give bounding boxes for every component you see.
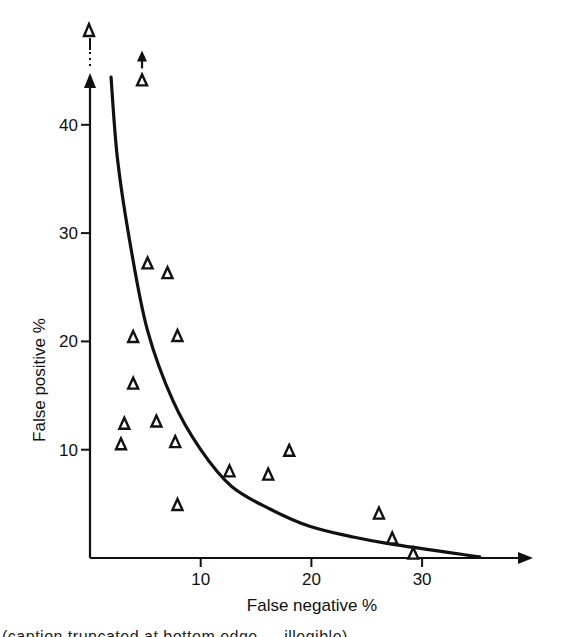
- x-tick-label: 30: [413, 570, 432, 589]
- triangle-marker-icon: [137, 74, 147, 85]
- x-tick: 20: [302, 558, 321, 589]
- y-ticks: 10203040: [59, 116, 90, 460]
- data-point: [263, 469, 273, 480]
- x-tick-label: 10: [191, 570, 210, 589]
- scatter-chart: 102030 10203040 False negative % False p…: [0, 0, 569, 637]
- figure-caption-truncated: (caption truncated at bottom edge — ille…: [0, 629, 569, 637]
- triangle-marker-icon: [172, 499, 182, 510]
- x-ticks: 102030: [191, 558, 431, 589]
- fitted-curve: [111, 77, 480, 557]
- data-point: [162, 267, 172, 278]
- x-tick: 10: [191, 558, 210, 589]
- triangle-marker-icon: [116, 438, 126, 449]
- data-point: [151, 416, 161, 427]
- data-point: [143, 257, 153, 268]
- triangle-marker-icon: [128, 331, 138, 342]
- x-tick-label: 20: [302, 570, 321, 589]
- y-axis-arrowhead: [84, 73, 96, 88]
- triangle-marker-icon: [162, 267, 172, 278]
- triangle-marker-icon: [172, 330, 182, 341]
- y-tick-label: 10: [59, 441, 78, 460]
- data-point: [172, 499, 182, 510]
- y-tick: 20: [59, 332, 90, 351]
- x-tick: 30: [413, 558, 432, 589]
- data-point: [170, 436, 180, 447]
- data-point: [128, 331, 138, 342]
- triangle-marker-icon: [143, 257, 153, 268]
- triangle-marker-icon: [387, 533, 397, 544]
- triangle-marker-icon: [284, 445, 294, 456]
- triangle-marker-icon: [263, 469, 273, 480]
- data-point: [128, 378, 138, 389]
- y-axis-title: False positive %: [30, 318, 49, 442]
- axes: [84, 52, 533, 564]
- x-axis-arrowhead: [518, 552, 533, 564]
- data-point: [137, 50, 147, 85]
- y-tick: 10: [59, 441, 90, 460]
- triangle-marker-icon: [224, 465, 234, 476]
- data-point: [172, 330, 182, 341]
- offscale-arrow-up-icon: [137, 50, 147, 61]
- caption-text: (caption truncated at bottom edge — ille…: [0, 629, 569, 637]
- y-tick-label: 30: [59, 224, 78, 243]
- data-point: [387, 533, 397, 544]
- data-point: [224, 465, 234, 476]
- triangle-marker-icon: [151, 416, 161, 427]
- triangle-marker-icon: [119, 418, 129, 429]
- triangle-marker-icon: [128, 378, 138, 389]
- y-tick-label: 20: [59, 332, 78, 351]
- data-points: [116, 50, 418, 558]
- data-point: [284, 445, 294, 456]
- x-axis-title: False negative %: [247, 596, 377, 615]
- offscale-triangle-marker: [84, 24, 94, 36]
- data-point: [119, 418, 129, 429]
- y-tick: 30: [59, 224, 90, 243]
- y-tick-label: 40: [59, 116, 78, 135]
- triangle-marker-icon: [374, 508, 384, 519]
- data-point: [116, 438, 126, 449]
- data-point: [374, 508, 384, 519]
- triangle-marker-icon: [170, 436, 180, 447]
- offscale-markers: [84, 24, 94, 50]
- y-tick: 40: [59, 116, 90, 135]
